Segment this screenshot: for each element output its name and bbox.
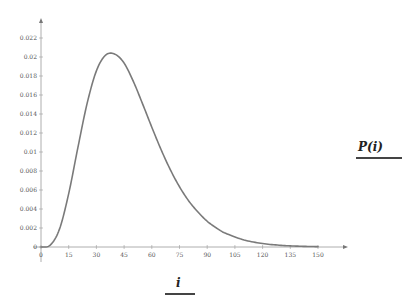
- x-tick-label: 135: [285, 251, 297, 258]
- y-tick-label: 0.006: [20, 186, 37, 193]
- y-tick-label: 0.014: [20, 110, 37, 117]
- x-tick-label: 105: [229, 251, 241, 258]
- x-tick-label: 45: [120, 251, 128, 258]
- y-tick-label: 0.022: [20, 34, 37, 41]
- x-tick-label: 0: [39, 251, 43, 258]
- axes: [33, 18, 348, 262]
- x-tick-label: 15: [65, 251, 73, 258]
- y-axis-label-underline: [356, 157, 402, 159]
- y-tick-label: 0.02: [24, 53, 38, 60]
- x-tick-label: 120: [257, 251, 269, 258]
- x-axis-label-underline: [165, 293, 195, 295]
- y-tick-label: 0: [33, 243, 37, 250]
- ticks: 015304560759010512013515000.0020.0040.00…: [20, 34, 324, 258]
- chart-plot-area: 015304560759010512013515000.0020.0040.00…: [0, 0, 419, 308]
- y-tick-label: 0.016: [20, 91, 37, 98]
- x-tick-label: 150: [312, 251, 324, 258]
- x-tick-label: 30: [93, 251, 101, 258]
- y-tick-label: 0.002: [20, 224, 37, 231]
- y-axis-arrow-icon: [39, 18, 43, 23]
- x-tick-label: 90: [203, 251, 211, 258]
- x-axis-arrow-icon: [343, 245, 348, 249]
- x-tick-label: 60: [148, 251, 156, 258]
- probability-curve: [41, 53, 318, 247]
- y-tick-label: 0.004: [20, 205, 37, 212]
- y-tick-label: 0.01: [24, 148, 37, 155]
- x-axis-label: i: [176, 276, 181, 290]
- y-tick-label: 0.012: [20, 129, 37, 136]
- y-tick-label: 0.018: [20, 72, 37, 79]
- y-tick-label: 0.008: [20, 167, 37, 174]
- y-axis-label: P(i): [358, 140, 383, 154]
- x-tick-label: 75: [176, 251, 184, 258]
